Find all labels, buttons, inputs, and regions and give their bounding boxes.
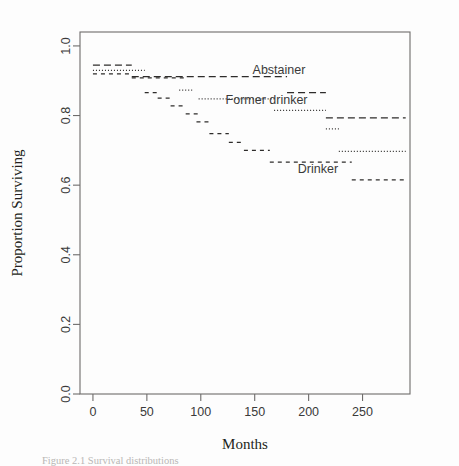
- x-tick-label: 100: [190, 405, 211, 419]
- abstainer-label: Abstainer: [253, 63, 306, 77]
- survival-plot-figure: 050100150200250 0.00.20.40.60.81.0 Absta…: [0, 0, 459, 466]
- curve-annotations: AbstainerFormer drinkerDrinker: [226, 63, 339, 177]
- former-drinker-label: Former drinker: [226, 93, 308, 107]
- y-tick-label: 0.8: [59, 107, 73, 124]
- curve-abstainer: [93, 65, 406, 118]
- x-axis-ticks: [93, 394, 363, 401]
- x-tick-label: 200: [298, 405, 319, 419]
- y-tick-label: 1.0: [59, 37, 73, 54]
- survival-curves: [93, 65, 406, 180]
- plot-canvas: 050100150200250 0.00.20.40.60.81.0 Absta…: [0, 0, 459, 466]
- x-axis-title: Months: [222, 436, 268, 452]
- drinker-label: Drinker: [298, 162, 338, 176]
- y-axis-title: Proportion Surviving: [9, 149, 25, 277]
- y-tick-label: 0.6: [59, 176, 73, 193]
- y-tick-label: 0.0: [59, 385, 73, 402]
- y-axis-ticks: [73, 46, 80, 394]
- plot-frame: [80, 32, 410, 394]
- curve-drinker: [93, 74, 406, 180]
- x-tick-label: 150: [244, 405, 265, 419]
- curve-former-drinker: [93, 70, 406, 151]
- y-axis-tick-labels: 0.00.20.40.60.81.0: [59, 37, 73, 403]
- x-tick-label: 250: [352, 405, 373, 419]
- y-tick-label: 0.2: [59, 316, 73, 333]
- x-axis-tick-labels: 050100150200250: [89, 405, 373, 419]
- y-tick-label: 0.4: [59, 246, 73, 263]
- x-tick-label: 50: [140, 405, 154, 419]
- figure-caption: Figure 2.1 Survival distributions: [42, 455, 179, 466]
- x-tick-label: 0: [89, 405, 96, 419]
